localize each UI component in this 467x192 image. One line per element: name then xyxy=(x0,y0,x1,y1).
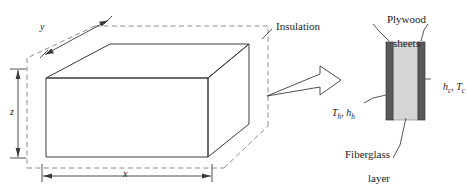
plywood-sheets-label: Plywood sheets xyxy=(358,2,444,61)
magnification-block-arrow xyxy=(267,66,341,96)
box-front-face xyxy=(46,78,208,157)
box-top-face xyxy=(46,44,249,78)
box-right-face xyxy=(208,44,249,157)
fiberglass-layer-label: Fiberglass layer xyxy=(320,137,390,192)
cold-side-coefficient-subscript: c xyxy=(448,87,451,95)
hot-side-leader xyxy=(364,95,386,103)
hot-side-temperature-subscript: h xyxy=(338,113,342,121)
cold-side-temperature-subscript: c xyxy=(462,87,465,95)
insulation-dashed-outline xyxy=(27,26,268,168)
hot-side-coefficient-subscript: h xyxy=(351,113,355,121)
dimension-label-z: z xyxy=(10,107,14,118)
dimension-label-y: y xyxy=(40,22,44,33)
figure-canvas: y z x Insulation Plywood sheets Fibergla… xyxy=(0,0,467,192)
dimension-label-x: x xyxy=(123,169,127,180)
plywood-sheets-label-line1: Plywood xyxy=(387,13,426,25)
dimension-y xyxy=(40,16,112,58)
fiberglass-layer-label-line2: layer xyxy=(368,172,390,184)
cold-side-label: hc, Tc xyxy=(433,71,465,106)
enclosure-box xyxy=(46,44,249,157)
fiberglass-leader xyxy=(393,118,406,158)
plywood-sheets-label-line2: sheets xyxy=(393,37,420,49)
insulation-leader-line xyxy=(262,29,272,39)
fiberglass-layer-label-line1: Fiberglass xyxy=(345,148,390,160)
hot-side-label: Th, hh xyxy=(322,97,355,132)
insulation-label: Insulation xyxy=(276,21,320,33)
